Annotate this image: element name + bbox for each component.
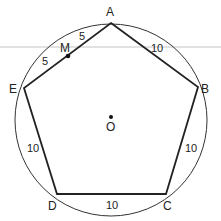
label-e: E — [9, 82, 17, 96]
label-c: C — [163, 199, 172, 213]
label-m: M — [60, 41, 70, 55]
length-ab: 10 — [151, 42, 163, 54]
length-me: 5 — [42, 55, 48, 67]
pentagon-diagram: A B C D E M O 5 5 10 10 10 10 — [0, 0, 221, 221]
label-a: A — [106, 5, 114, 19]
label-o: O — [106, 120, 115, 134]
length-cd: 10 — [106, 199, 118, 211]
pentagon-abcde — [24, 23, 198, 194]
label-d: D — [48, 199, 57, 213]
length-am: 5 — [79, 30, 85, 42]
length-de: 10 — [27, 142, 39, 154]
point-o — [109, 115, 113, 119]
length-bc: 10 — [185, 142, 197, 154]
label-b: B — [201, 82, 209, 96]
